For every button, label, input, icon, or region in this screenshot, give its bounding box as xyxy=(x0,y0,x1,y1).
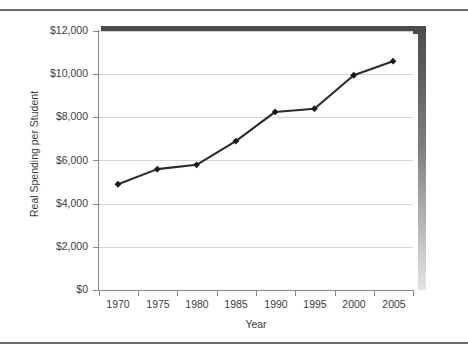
data-point-marker xyxy=(390,58,397,65)
plot-wrapper: $12,000 $10,000 $8,000 $6,000 $4,000 $2,… xyxy=(0,0,468,349)
x-axis-title: Year xyxy=(99,318,413,330)
data-point-marker xyxy=(115,181,122,188)
series-layer xyxy=(0,0,468,349)
data-point-marker xyxy=(154,166,161,173)
series-line xyxy=(118,61,393,184)
y-axis-title: Real Spending per Student xyxy=(28,54,40,254)
chart-figure: $12,000 $10,000 $8,000 $6,000 $4,000 $2,… xyxy=(0,0,468,349)
series-markers xyxy=(115,58,397,188)
